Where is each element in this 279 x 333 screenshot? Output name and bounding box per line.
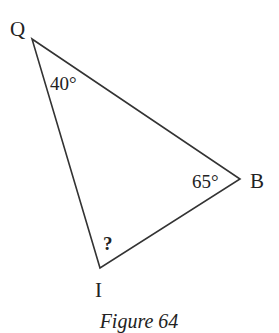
vertex-label-q: Q (10, 17, 25, 41)
figure-caption: Figure 64 (99, 310, 179, 333)
angle-label-i: ? (103, 233, 113, 254)
angle-label-q: 40° (50, 73, 77, 94)
vertex-label-i: I (95, 278, 102, 302)
triangle-diagram: Q 40° 65° B ? I Figure 64 (0, 0, 279, 333)
angle-label-b: 65° (192, 171, 219, 192)
vertex-label-b: B (250, 169, 264, 193)
